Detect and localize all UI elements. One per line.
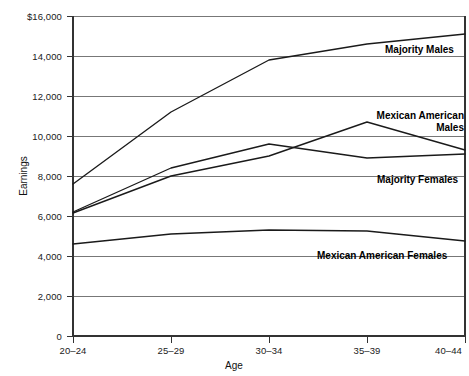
x-axis-title: Age	[225, 360, 243, 371]
series-line-majority-males	[73, 34, 465, 184]
y-tick-label-10000: 10,000	[0, 131, 62, 142]
chart-plot-svg	[0, 0, 469, 376]
y-tick-label-16000: $16,000	[0, 11, 62, 22]
series-label-mexican-american-females: Mexican American Females	[317, 250, 447, 262]
series-label-majority-females: Majority Females	[377, 174, 458, 186]
x-tick-label-35-39: 35–39	[354, 345, 381, 356]
x-tick-label-25-29: 25–29	[158, 345, 185, 356]
y-tick-marks	[67, 16, 73, 336]
y-tick-label-0: 0	[0, 331, 62, 342]
x-tick-marks	[73, 336, 465, 343]
y-axis-title: Earnings	[18, 156, 29, 195]
series-label-mexican-american-males: Mexican American Males	[342, 110, 464, 133]
x-tick-label-20-24: 20–24	[60, 345, 87, 356]
series-line-mexican-american-females	[73, 230, 465, 244]
series-label-mexican-american-males-line2: Males	[342, 122, 464, 134]
y-tick-label-14000: 14,000	[0, 51, 62, 62]
series-label-mexican-american-males-line1: Mexican American	[342, 110, 464, 122]
x-tick-label-40-44: 40–44	[435, 345, 462, 356]
y-tick-label-12000: 12,000	[0, 91, 62, 102]
y-tick-label-6000: 6,000	[0, 211, 62, 222]
y-tick-label-4000: 4,000	[0, 251, 62, 262]
x-tick-label-30-34: 30–34	[256, 345, 283, 356]
y-tick-label-8000: 8,000	[0, 171, 62, 182]
earnings-by-age-line-chart: $16,000 14,000 12,000 10,000 8,000 6,000…	[0, 0, 469, 376]
data-series-group	[73, 34, 465, 244]
y-tick-label-2000: 2,000	[0, 291, 62, 302]
series-label-majority-males: Majority Males	[385, 44, 454, 56]
